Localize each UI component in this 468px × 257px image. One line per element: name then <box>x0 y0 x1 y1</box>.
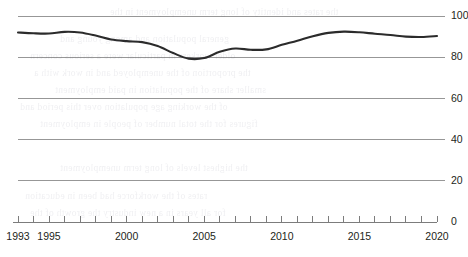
y-axis-tick-label: 100 <box>451 9 468 21</box>
data-series-line <box>18 32 437 59</box>
y-axis-tick-label: 0 <box>451 215 457 227</box>
x-axis-tick-label: 2010 <box>270 230 294 242</box>
gridlines-group <box>18 16 445 181</box>
x-axis-labels-group: 1993199520002005201020152020 <box>6 230 449 242</box>
x-axis-tick-label: 2005 <box>193 230 217 242</box>
y-axis-tick-label: 20 <box>451 174 463 186</box>
x-axis-tick-label: 1993 <box>6 230 30 242</box>
y-axis-tick-label: 60 <box>451 92 463 104</box>
line-chart: 020406080100 199319952000200520102015202… <box>0 0 468 257</box>
chart-container: the rates and identity of long term unem… <box>0 0 468 257</box>
y-axis-tick-label: 40 <box>451 133 463 145</box>
y-axis-labels-group: 020406080100 <box>451 9 468 227</box>
x-axis-tick-label: 2000 <box>115 230 139 242</box>
x-axis-tick-label: 1995 <box>37 230 61 242</box>
x-axis-group <box>13 216 437 222</box>
x-axis-tick-label: 2020 <box>425 230 449 242</box>
x-axis-tick-label: 2015 <box>348 230 372 242</box>
y-axis-tick-label: 80 <box>451 50 463 62</box>
